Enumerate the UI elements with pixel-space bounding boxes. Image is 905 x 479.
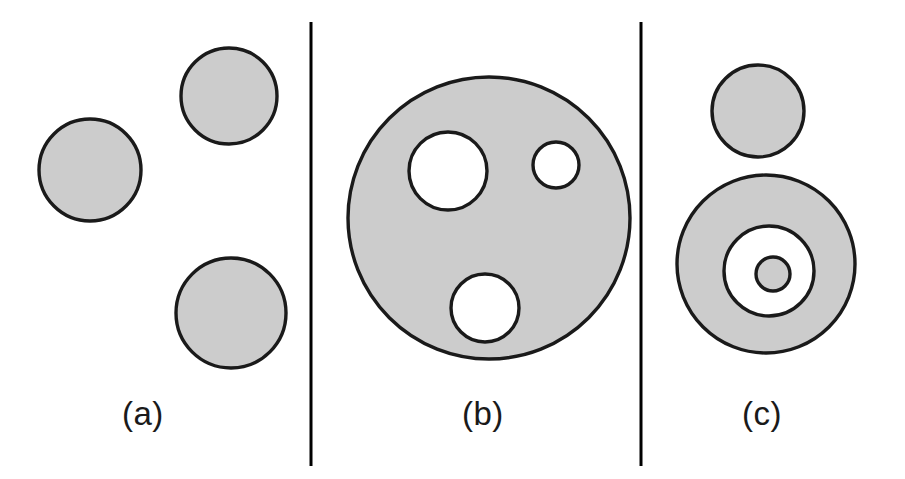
hole-b-bottom	[451, 274, 519, 342]
panel-label-c: (c)	[742, 395, 782, 433]
figure-canvas: (a) (b) (c)	[0, 0, 905, 479]
panel-c-shapes	[677, 65, 855, 353]
panel-a-shapes	[39, 48, 286, 368]
circle-a3	[176, 258, 286, 368]
hole-b-large	[409, 132, 487, 210]
circle-a2	[181, 48, 277, 144]
panel-label-b: (b)	[462, 395, 504, 433]
dot-c-center	[756, 257, 790, 291]
hole-b-small	[533, 142, 579, 188]
circle-c-top	[712, 65, 804, 157]
panel-label-a: (a)	[122, 395, 164, 433]
panel-b-shapes	[348, 77, 630, 359]
circle-a1	[39, 119, 141, 221]
